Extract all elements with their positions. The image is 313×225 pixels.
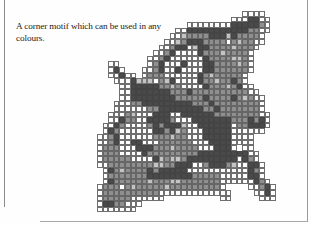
blank-space	[276, 207, 282, 213]
corner-motif-chart	[97, 11, 293, 212]
right-border-line	[307, 0, 308, 222]
book-page: A corner motif which can be used in any …	[0, 0, 313, 225]
left-border-line	[4, 0, 5, 207]
bottom-border-line	[40, 221, 308, 222]
chart-row	[97, 207, 293, 213]
blank-space	[287, 201, 293, 207]
